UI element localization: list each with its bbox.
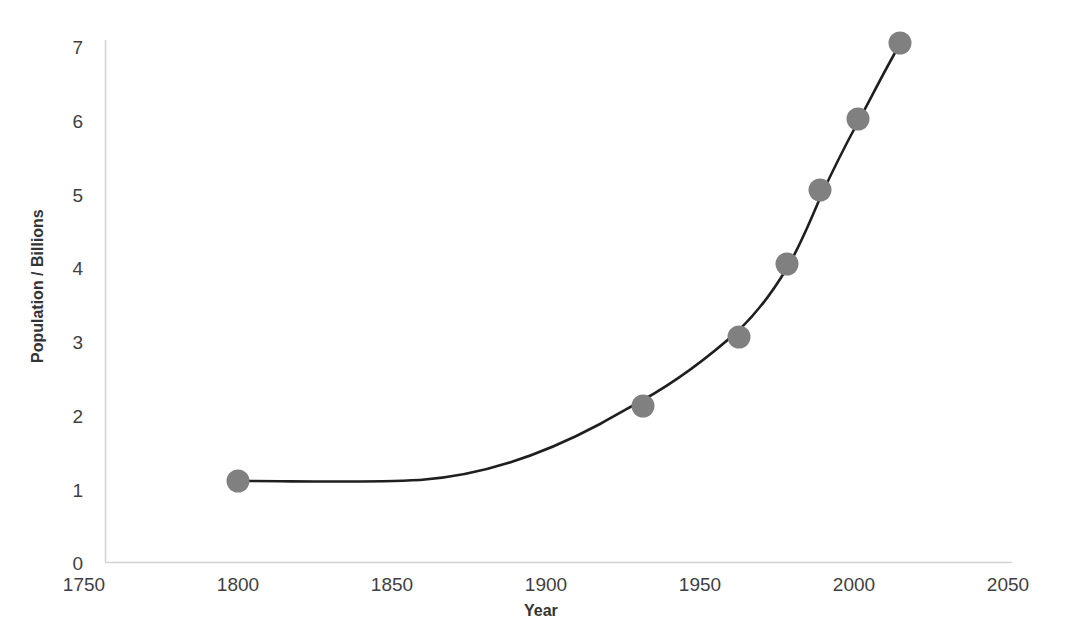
y-tick-label-3: 3	[43, 333, 83, 352]
y-tick-label-1: 1	[43, 481, 83, 500]
data-point-marker	[632, 395, 655, 418]
data-point-marker	[728, 326, 751, 349]
chart-background	[0, 0, 1068, 643]
data-point-marker	[847, 108, 870, 131]
y-tick-label-5: 5	[43, 186, 83, 205]
x-tick-label-1900: 1900	[501, 575, 591, 594]
population-growth-figure: 7 6 5 4 3 2 1 0 1750 1800 1850 1900 1950…	[0, 0, 1068, 643]
y-tick-label-6: 6	[43, 112, 83, 131]
y-tick-label-2: 2	[43, 407, 83, 426]
x-tick-label-1850: 1850	[347, 575, 437, 594]
y-tick-label-7: 7	[43, 38, 83, 57]
x-tick-label-1800: 1800	[193, 575, 283, 594]
y-tick-label-0: 0	[43, 554, 83, 573]
figure-caption	[0, 629, 1068, 643]
data-point-marker	[227, 470, 250, 493]
y-tick-label-4: 4	[43, 259, 83, 278]
x-axis-title: Year	[524, 603, 558, 619]
x-tick-label-2050: 2050	[963, 575, 1053, 594]
data-point-marker	[889, 32, 912, 55]
data-point-marker	[809, 179, 832, 202]
x-tick-label-1950: 1950	[655, 575, 745, 594]
x-tick-label-1750: 1750	[39, 575, 129, 594]
y-axis-title: Population / Billions	[30, 209, 46, 363]
data-point-marker	[776, 253, 799, 276]
chart-canvas	[0, 0, 1068, 643]
x-tick-label-2000: 2000	[809, 575, 899, 594]
